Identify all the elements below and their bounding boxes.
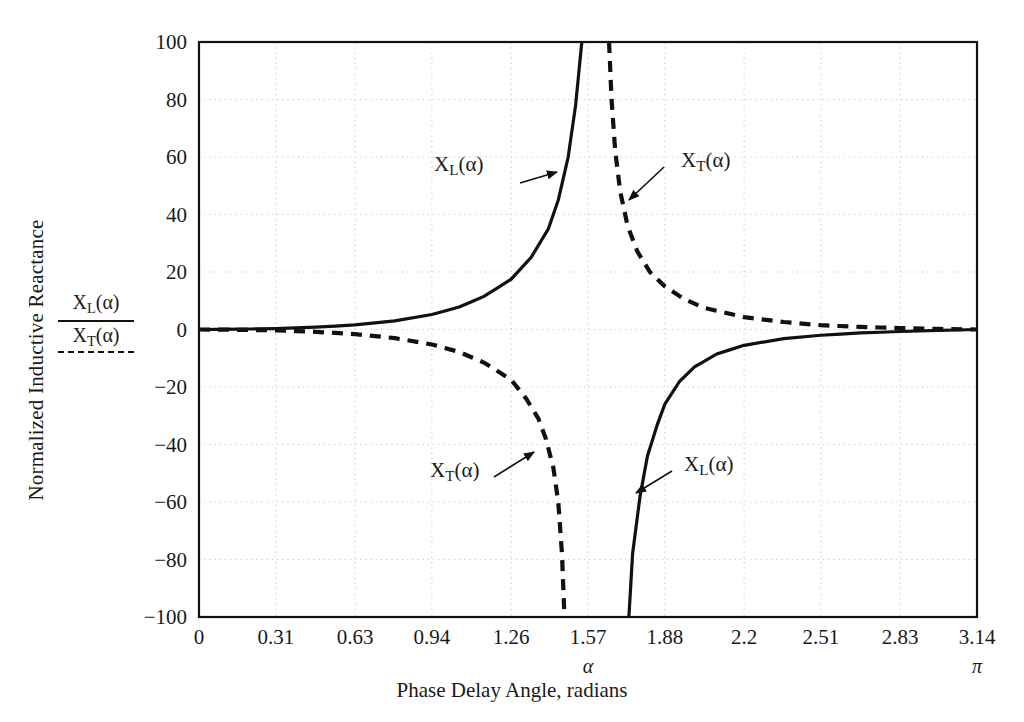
curve-xt [199, 330, 564, 618]
grid-lines [199, 42, 977, 617]
chart-plot-area [0, 0, 1024, 722]
curve-xl [199, 42, 582, 330]
annotation-arrows [494, 167, 672, 493]
curve-xt [609, 42, 977, 330]
arrow-to-xt-upper [629, 167, 664, 200]
arrow-to-xl-upper [520, 172, 557, 183]
curve-xl [629, 330, 977, 618]
figure-canvas: Normalized Inductive Reactance XL(α) XT(… [0, 0, 1024, 722]
arrow-to-xt-lower [494, 452, 534, 477]
